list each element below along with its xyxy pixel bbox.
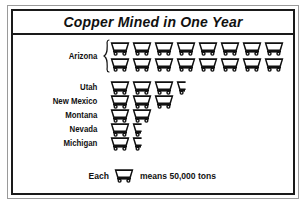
mine-cart-icon — [176, 41, 196, 56]
mine-cart-icon — [114, 168, 134, 183]
pictograph-row: Montana — [13, 108, 293, 122]
mine-cart-icon — [198, 41, 218, 56]
icon-strip — [110, 41, 284, 72]
legend-mine-cart-icon — [114, 168, 134, 183]
mine-cart-icon — [154, 94, 174, 109]
mine-cart-icon — [132, 108, 152, 123]
row-label-utah: Utah — [20, 83, 102, 92]
icon-line — [110, 108, 152, 123]
mine-cart-half-icon — [132, 136, 142, 151]
mine-cart-icon — [242, 41, 262, 56]
mine-cart-icon — [110, 80, 130, 95]
mine-cart-half-icon — [132, 122, 142, 137]
pictograph-plot-area: ArizonaUtahNew MexicoMontanaNevadaMichig… — [13, 35, 293, 165]
mine-cart-half-icon — [176, 80, 186, 95]
curly-brace-icon — [103, 39, 110, 73]
mine-cart-icon — [154, 57, 174, 72]
mine-cart-icon — [110, 136, 130, 151]
pictograph-row: Arizona — [13, 38, 293, 74]
mine-cart-icon — [132, 80, 152, 95]
row-label-nevada: Nevada — [20, 125, 102, 134]
icon-strip — [110, 136, 142, 151]
chart-legend: Each means 50,000 tons — [13, 168, 293, 183]
pictograph-row: Utah — [13, 80, 293, 94]
mine-cart-icon — [220, 57, 240, 72]
pictograph-row: Michigan — [13, 136, 293, 150]
brace-slot — [102, 39, 110, 73]
mine-cart-icon — [242, 57, 262, 72]
mine-cart-icon — [154, 80, 174, 95]
pictograph-row: New Mexico — [13, 94, 293, 108]
row-label-michigan: Michigan — [20, 139, 102, 148]
legend-suffix-label: means 50,000 tons — [140, 171, 216, 181]
mine-cart-icon — [110, 41, 130, 56]
icon-line — [110, 80, 186, 95]
mine-cart-icon — [220, 41, 240, 56]
row-label-montana: Montana — [20, 111, 102, 120]
icon-strip — [110, 94, 174, 109]
icon-line — [110, 94, 174, 109]
mine-cart-icon — [264, 57, 284, 72]
legend-prefix-label: Each — [89, 171, 109, 181]
chart-title: Copper Mined in One Year — [63, 14, 242, 30]
mine-cart-icon — [176, 57, 196, 72]
mine-cart-icon — [132, 41, 152, 56]
mine-cart-icon — [264, 41, 284, 56]
icon-line — [110, 57, 284, 72]
mine-cart-icon — [110, 94, 130, 109]
row-label-arizona: Arizona — [20, 52, 102, 61]
mine-cart-icon — [110, 122, 130, 137]
icon-line — [110, 136, 142, 151]
icon-strip — [110, 108, 152, 123]
icon-strip — [110, 122, 142, 137]
mine-cart-icon — [154, 41, 174, 56]
icon-line — [110, 122, 142, 137]
mine-cart-icon — [110, 108, 130, 123]
row-label-new-mexico: New Mexico — [20, 97, 102, 106]
mine-cart-icon — [110, 57, 130, 72]
icon-line — [110, 41, 284, 56]
mine-cart-icon — [132, 57, 152, 72]
mine-cart-icon — [198, 57, 218, 72]
chart-title-box: Copper Mined in One Year — [13, 11, 293, 35]
pictograph-figure: Copper Mined in One Year ArizonaUtahNew … — [0, 0, 308, 208]
icon-strip — [110, 80, 186, 95]
pictograph-row: Nevada — [13, 122, 293, 136]
mine-cart-icon — [132, 94, 152, 109]
